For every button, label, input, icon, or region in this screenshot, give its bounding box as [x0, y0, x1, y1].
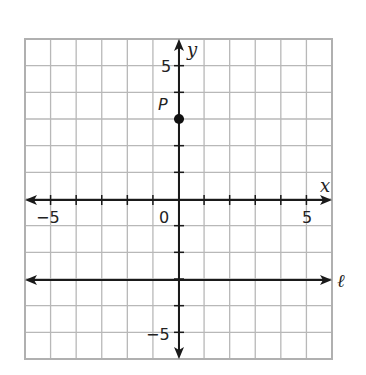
x-tick-label-zero: 0 [159, 208, 169, 227]
y-axis-label: y [186, 39, 198, 60]
point-p-label: P [158, 95, 168, 114]
x-axis-label: x [320, 175, 330, 196]
coordinate-plane: y x −5 0 5 5 −5 P ℓ [0, 0, 366, 375]
y-tick-label-neg5: −5 [146, 325, 170, 344]
x-tick-label-pos5: 5 [302, 208, 312, 227]
y-tick-label-pos5: 5 [161, 57, 171, 76]
line-l-label: ℓ [337, 270, 345, 291]
point-p [174, 114, 184, 124]
x-tick-label-neg5: −5 [36, 208, 60, 227]
